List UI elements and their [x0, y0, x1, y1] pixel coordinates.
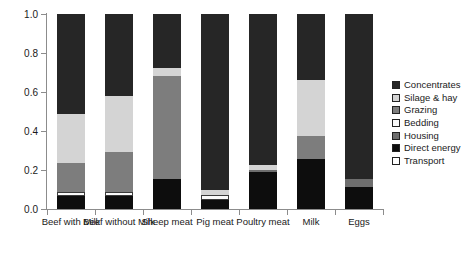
bar-segment-bedding [105, 192, 133, 196]
bar-segment-concentrates [345, 14, 373, 179]
legend-label: Grazing [404, 105, 437, 115]
plot-area [47, 14, 383, 209]
bar-segment-concentrates [249, 14, 277, 165]
bar-segment-grazing [105, 152, 133, 192]
y-tick-0.0: 0.0 [41, 209, 46, 210]
bar-segment-grazing [297, 136, 325, 159]
bar-segment-grazing [57, 163, 85, 193]
stacked-bar-chart: 0.00.20.40.60.81.0 Beef with MilkBeef wi… [0, 0, 473, 268]
y-tick-label: 0.8 [24, 49, 38, 59]
y-tick-0.8: 0.8 [41, 53, 46, 54]
bar-segment-silage-hay [249, 165, 277, 169]
legend-swatch-icon [392, 81, 400, 89]
x-label-eggs: Eggs [323, 216, 395, 227]
legend-item-concentrates[interactable]: Concentrates [392, 79, 461, 92]
bar-pig-meat [201, 14, 229, 209]
bar-segment-silage-hay [297, 80, 325, 136]
y-tick-label: 0.2 [24, 166, 38, 176]
x-tick [47, 210, 48, 215]
bar-beef-without-milk [105, 14, 133, 209]
bar-segment-direct-energy [153, 179, 181, 209]
bar-segment-direct-energy [297, 159, 325, 209]
bar-segment-direct-energy [201, 200, 229, 209]
legend-label: Silage & hay [404, 93, 457, 103]
legend-item-housing[interactable]: Housing [392, 129, 461, 142]
bar-segment-direct-energy [57, 196, 85, 209]
legend-label: Bedding [404, 118, 439, 128]
bar-segment-silage-hay [153, 68, 181, 77]
x-tick [287, 210, 288, 215]
y-tick-0.6: 0.6 [41, 92, 46, 93]
x-tick [143, 210, 144, 215]
legend-item-bedding[interactable]: Bedding [392, 117, 461, 130]
x-tick [335, 210, 336, 215]
bar-segment-direct-energy [105, 196, 133, 209]
bar-sheep-meat [153, 14, 181, 209]
legend-item-direct-energy[interactable]: Direct energy [392, 142, 461, 155]
y-tick-label: 0.6 [24, 88, 38, 98]
legend-swatch-icon [392, 144, 400, 152]
x-tick [383, 210, 384, 215]
y-tick-label: 0.4 [24, 127, 38, 137]
bar-milk [297, 14, 325, 209]
bar-eggs [345, 14, 373, 209]
legend-label: Direct energy [404, 143, 461, 153]
bar-segment-concentrates [297, 14, 325, 80]
bar-segment-direct-energy [345, 187, 373, 209]
legend-label: Transport [404, 156, 444, 166]
bar-segment-concentrates [57, 14, 85, 114]
y-tick-label: 1.0 [24, 10, 38, 20]
bar-segment-grazing [153, 76, 181, 178]
x-tick [95, 210, 96, 215]
bar-segment-concentrates [105, 14, 133, 96]
bar-segment-concentrates [153, 14, 181, 68]
legend-label: Housing [404, 131, 439, 141]
bar-beef-with-milk [57, 14, 85, 209]
legend-label: Concentrates [404, 80, 461, 90]
chart-legend: ConcentratesSilage & hayGrazingBeddingHo… [392, 79, 461, 167]
legend-swatch-icon [392, 94, 400, 102]
bar-segment-silage-hay [201, 190, 229, 195]
legend-swatch-icon [392, 157, 400, 165]
bar-segment-bedding [57, 192, 85, 196]
x-axis-line [46, 209, 384, 210]
legend-swatch-icon [392, 106, 400, 114]
bar-segment-housing [249, 170, 277, 172]
legend-swatch-icon [392, 132, 400, 140]
x-tick [191, 210, 192, 215]
bar-segment-bedding [201, 195, 229, 200]
legend-item-grazing[interactable]: Grazing [392, 104, 461, 117]
bar-segment-silage-hay [105, 96, 133, 152]
legend-item-silage-hay[interactable]: Silage & hay [392, 92, 461, 105]
bar-segment-housing [345, 179, 373, 187]
legend-item-transport[interactable]: Transport [392, 155, 461, 168]
x-tick [239, 210, 240, 215]
y-tick-0.4: 0.4 [41, 131, 46, 132]
y-tick-1.0: 1.0 [41, 14, 46, 15]
legend-swatch-icon [392, 119, 400, 127]
y-tick-0.2: 0.2 [41, 170, 46, 171]
bar-segment-direct-energy [249, 172, 277, 209]
bar-poultry-meat [249, 14, 277, 209]
bar-segment-concentrates [201, 14, 229, 190]
bar-segment-silage-hay [57, 114, 85, 162]
y-tick-label: 0.0 [24, 205, 38, 215]
